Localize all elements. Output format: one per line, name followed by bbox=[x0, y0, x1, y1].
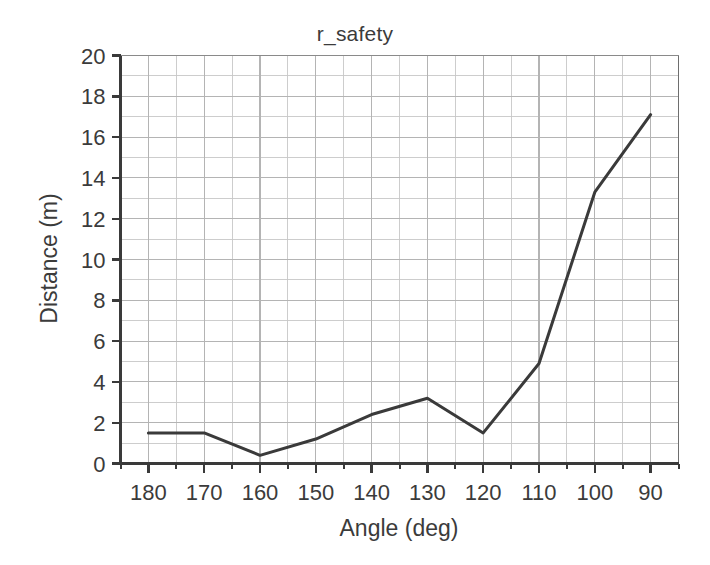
x-tick-label: 100 bbox=[576, 480, 613, 505]
x-tick-label: 90 bbox=[638, 480, 662, 505]
x-tick-label: 120 bbox=[465, 480, 502, 505]
x-tick-label: 150 bbox=[297, 480, 334, 505]
x-tick-label: 130 bbox=[409, 480, 446, 505]
axis-ticks bbox=[112, 56, 679, 473]
y-tick-label: 14 bbox=[81, 166, 105, 191]
x-tick-label: 170 bbox=[186, 480, 223, 505]
y-tick-label: 10 bbox=[81, 248, 105, 273]
plot-area: 0246810121416182018017016015014013012011… bbox=[0, 0, 710, 565]
y-tick-label: 16 bbox=[81, 125, 105, 150]
y-tick-label: 2 bbox=[93, 411, 105, 436]
y-tick-label: 18 bbox=[81, 84, 105, 109]
y-tick-label: 4 bbox=[93, 370, 105, 395]
x-tick-label: 160 bbox=[242, 480, 279, 505]
y-tick-label: 8 bbox=[93, 288, 105, 313]
y-tick-label: 12 bbox=[81, 207, 105, 232]
y-tick-label: 6 bbox=[93, 329, 105, 354]
y-tick-label: 20 bbox=[81, 44, 105, 69]
x-tick-label: 110 bbox=[521, 480, 556, 505]
y-tick-label: 0 bbox=[93, 452, 105, 477]
chart-figure: r_safety Distance (m) Angle (deg) 024681… bbox=[0, 0, 710, 565]
x-tick-label: 140 bbox=[353, 480, 390, 505]
x-tick-label: 180 bbox=[130, 480, 167, 505]
